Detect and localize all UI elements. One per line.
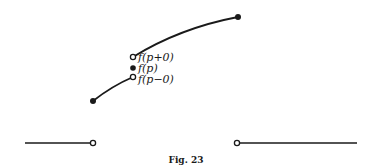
right-endpoint-filled <box>235 14 241 20</box>
value-filled-point <box>130 65 136 71</box>
figure-canvas: f(p+0) f(p) f(p−0) Fig. 23 <box>0 0 372 168</box>
bottom-right-hollow-end <box>234 140 239 145</box>
left-limit-hollow-point <box>130 74 135 79</box>
right-limit-hollow-point <box>130 54 135 59</box>
left-endpoint-filled <box>90 98 96 104</box>
bottom-left-hollow-end <box>90 140 95 145</box>
left-curve <box>93 77 133 101</box>
label-left-limit: f(p−0) <box>137 73 174 86</box>
figure-caption: Fig. 23 <box>169 155 204 165</box>
